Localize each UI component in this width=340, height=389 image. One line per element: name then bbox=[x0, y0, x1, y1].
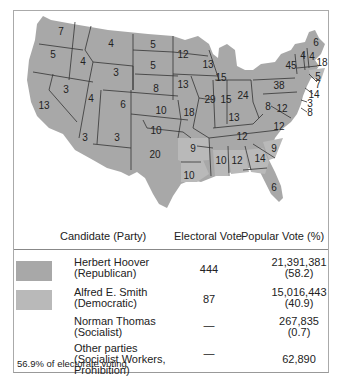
democratic-swatch bbox=[16, 290, 52, 310]
state-electoral-count: 10 bbox=[155, 105, 167, 116]
state-electoral-count: 8 bbox=[265, 101, 271, 112]
header-popular-vote: Popular Vote (%) bbox=[241, 230, 324, 242]
state-electoral-count: 4 bbox=[300, 50, 306, 61]
electoral-vote: — bbox=[189, 320, 229, 331]
state-electoral-count: 6 bbox=[313, 37, 319, 48]
candidate-party: (Socialist) bbox=[74, 327, 156, 338]
table-row-hoover: Herbert Hoover (Republican) 444 21,391,3… bbox=[14, 257, 328, 283]
popular-percent: (58.2) bbox=[264, 268, 334, 279]
state-electoral-count: 3 bbox=[114, 132, 120, 143]
us-electoral-map: 7544553133468103310201213189101329151524… bbox=[13, 10, 329, 230]
state-electoral-count: 6 bbox=[120, 99, 126, 110]
popular-vote: 62,890 bbox=[264, 354, 334, 365]
state-electoral-count: 5 bbox=[50, 49, 56, 60]
candidate-party: (Democratic) bbox=[74, 298, 147, 309]
state-electoral-count: 3 bbox=[82, 132, 88, 143]
state-electoral-count: 3 bbox=[113, 67, 119, 78]
state-electoral-count: 9 bbox=[271, 143, 277, 154]
republican-swatch bbox=[16, 261, 52, 281]
state-electoral-count: 12 bbox=[231, 155, 243, 166]
state-electoral-count: 14 bbox=[254, 153, 266, 164]
state-electoral-count: 13 bbox=[38, 100, 50, 111]
table-row-thomas: Norman Thomas (Socialist) — 267,835 (0.7… bbox=[14, 316, 328, 342]
state-electoral-count: 12 bbox=[177, 49, 189, 60]
state-electoral-count: 5 bbox=[150, 60, 156, 71]
table-header: Candidate (Party) Electoral Vote Popular… bbox=[13, 230, 329, 248]
state-electoral-count: 45 bbox=[285, 60, 297, 71]
state-electoral-count: 10 bbox=[183, 170, 195, 181]
state-electoral-count: 5 bbox=[150, 39, 156, 50]
turnout-footnote: 56.9% of electorate voting bbox=[17, 358, 127, 369]
map-svg: 7544553133468103310201213189101329151524… bbox=[13, 10, 329, 230]
state-electoral-count: 13 bbox=[202, 59, 214, 70]
header-divider bbox=[14, 249, 328, 250]
state-electoral-count: 4 bbox=[80, 56, 86, 67]
state-electoral-count: 6 bbox=[271, 182, 277, 193]
state-electoral-count: 24 bbox=[237, 90, 249, 101]
state-electoral-count: 20 bbox=[149, 149, 161, 160]
state-electoral-count: 12 bbox=[236, 131, 248, 142]
candidate-party: (Republican) bbox=[74, 268, 149, 279]
state-electoral-count: 15 bbox=[220, 94, 232, 105]
state-electoral-count: 29 bbox=[204, 94, 216, 105]
state-electoral-count: 8 bbox=[307, 107, 313, 118]
electoral-vote: — bbox=[189, 348, 229, 359]
electoral-vote: 87 bbox=[189, 294, 229, 305]
state-electoral-count: 10 bbox=[150, 125, 162, 136]
header-electoral-vote: Electoral Vote bbox=[174, 230, 242, 242]
state-electoral-count: 38 bbox=[273, 80, 285, 91]
state-electoral-count: 9 bbox=[190, 143, 196, 154]
state-electoral-count: 13 bbox=[177, 79, 189, 90]
state-electoral-count: 8 bbox=[153, 83, 159, 94]
popular-percent: (40.9) bbox=[264, 298, 334, 309]
header-candidate: Candidate (Party) bbox=[60, 230, 146, 242]
state-electoral-count: 3 bbox=[63, 84, 69, 95]
state-electoral-count: 4 bbox=[88, 93, 94, 104]
state-electoral-count: 12 bbox=[276, 103, 288, 114]
state-electoral-count: 4 bbox=[108, 38, 114, 49]
state-electoral-count: 10 bbox=[215, 155, 227, 166]
state-electoral-count: 18 bbox=[183, 107, 195, 118]
electoral-vote: 444 bbox=[189, 264, 229, 275]
state-electoral-count: 13 bbox=[228, 112, 240, 123]
popular-percent: (0.7) bbox=[264, 327, 334, 338]
state-electoral-count: 15 bbox=[215, 72, 227, 83]
state-electoral-count: 12 bbox=[273, 121, 285, 132]
state-electoral-count: 4 bbox=[309, 51, 315, 62]
state-electoral-count: 7 bbox=[58, 26, 64, 37]
table-row-smith: Alfred E. Smith (Democratic) 87 15,016,4… bbox=[14, 287, 328, 313]
state-electoral-count: 18 bbox=[316, 57, 328, 68]
